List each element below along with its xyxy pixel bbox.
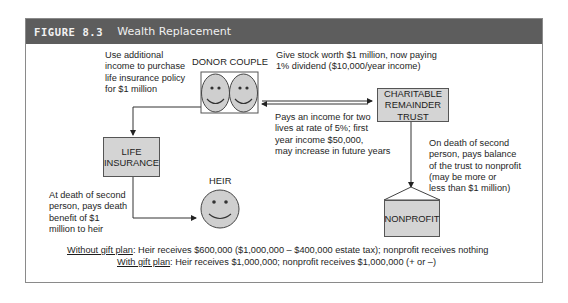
with-plan-label: With gift plan (117, 257, 170, 267)
heir-label: HEIR (209, 175, 231, 186)
without-plan-text: : Heir receives $600,000 ($1,000,000 – $… (133, 245, 488, 255)
summary-without-plan: Without gift plan: Heir receives $600,00… (67, 245, 488, 255)
without-plan-label: Without gift plan (67, 245, 133, 255)
donor-couple-icon (201, 72, 258, 113)
insurance-death-note: At death of second person, pays death be… (49, 190, 127, 235)
trust-death-note: On death of second person, pays balance … (429, 138, 521, 194)
with-plan-text: : Heir receives $1,000,000; nonprofit re… (170, 257, 436, 267)
give-stock-note: Give stock worth $1 million, now paying … (276, 50, 437, 73)
donor-insurance-arrow (133, 107, 201, 135)
use-income-note: Use additional income to purchase life i… (105, 50, 185, 95)
insurance-heir-arrow (133, 177, 196, 218)
heir-smiley-icon (201, 190, 239, 228)
donor-couple-label: DONOR COUPLE (192, 56, 268, 67)
charitable-remainder-trust-box: CHARITABLE REMAINDER TRUST (377, 88, 449, 122)
pays-income-note: Pays an income for two lives at rate of … (275, 112, 390, 157)
life-insurance-box: LIFE INSURANCE (103, 137, 160, 177)
donor-trust-arrow (262, 101, 372, 104)
summary-with-plan: With gift plan: Heir receives $1,000,000… (117, 257, 436, 267)
nonprofit-box: NONPROFIT (384, 200, 440, 237)
